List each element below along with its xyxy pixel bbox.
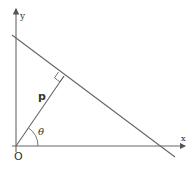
normal-form-line-diagram: y x O p θ <box>0 0 195 169</box>
y-axis-label: y <box>19 11 26 21</box>
angle-arc <box>28 128 38 146</box>
origin-label: O <box>14 150 23 163</box>
angle-label: θ <box>38 126 44 137</box>
x-axis-label: x <box>181 134 186 143</box>
perpendicular-label: p <box>38 90 46 103</box>
